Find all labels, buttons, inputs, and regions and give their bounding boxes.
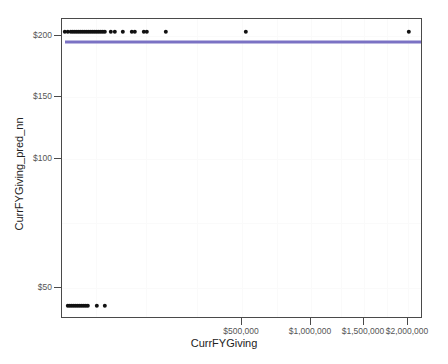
x-axis-tick bbox=[310, 318, 311, 325]
data-point bbox=[133, 30, 137, 34]
gridline-vertical bbox=[364, 19, 365, 317]
y-axis-tick bbox=[54, 35, 61, 36]
plot-area bbox=[61, 18, 422, 318]
x-axis-tick-label: $1,000,000 bbox=[289, 326, 332, 336]
data-point bbox=[95, 304, 99, 308]
gridline-vertical bbox=[146, 19, 147, 317]
data-point bbox=[121, 30, 125, 34]
data-point bbox=[244, 30, 248, 34]
gridline-horizontal bbox=[62, 288, 421, 289]
gridline-vertical bbox=[277, 19, 278, 317]
x-axis-tick bbox=[363, 318, 364, 325]
y-axis-tick-label: $100 bbox=[33, 153, 52, 163]
gridline-vertical bbox=[408, 19, 409, 317]
scatter-plot-figure: $200$150$100$50 $500,000$1,000,000$1,500… bbox=[0, 0, 448, 364]
gridline-vertical bbox=[197, 19, 198, 317]
regression-line bbox=[65, 41, 421, 44]
data-point bbox=[407, 30, 411, 34]
data-point bbox=[145, 30, 149, 34]
x-axis-tick-label: $500,000 bbox=[223, 326, 258, 336]
y-axis-tick-label: $150 bbox=[33, 91, 52, 101]
data-point bbox=[103, 30, 107, 34]
y-axis-tick bbox=[54, 158, 61, 159]
x-axis-title: CurrFYGiving bbox=[0, 337, 448, 349]
y-axis-tick-label: $50 bbox=[38, 282, 52, 292]
gridline-horizontal bbox=[62, 97, 421, 98]
x-axis-tick bbox=[407, 318, 408, 325]
x-axis-tick-label: $2,000,000 bbox=[386, 326, 429, 336]
x-axis-tick-label: $1,500,000 bbox=[342, 326, 385, 336]
gridline-vertical bbox=[387, 19, 388, 317]
data-point bbox=[86, 304, 90, 308]
data-point bbox=[103, 304, 107, 308]
gridline-horizontal bbox=[62, 223, 421, 224]
gridline-vertical bbox=[96, 19, 97, 317]
x-axis-tick bbox=[241, 318, 242, 325]
gridline-vertical bbox=[311, 19, 312, 317]
gridline-vertical bbox=[242, 19, 243, 317]
gridline-vertical bbox=[341, 19, 342, 317]
data-point bbox=[164, 30, 168, 34]
y-axis-title: CurrFYGiving_pred_nn bbox=[13, 89, 25, 259]
y-axis-tick bbox=[54, 287, 61, 288]
y-axis-tick bbox=[54, 96, 61, 97]
gridline-horizontal bbox=[62, 159, 421, 160]
y-axis-tick-label: $200 bbox=[33, 30, 52, 40]
data-point bbox=[113, 30, 117, 34]
gridline-horizontal bbox=[62, 36, 421, 37]
